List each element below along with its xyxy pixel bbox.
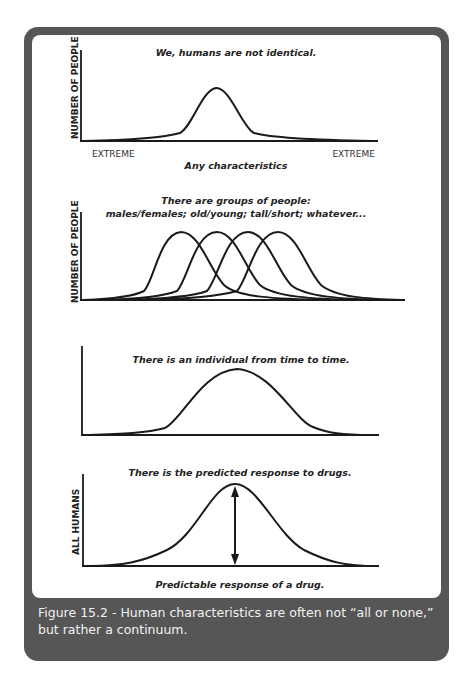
figure-diagrams: We, humans are not identical. NUMBER OF … bbox=[32, 35, 441, 598]
chart-1-x-right-label: EXTREME bbox=[332, 149, 375, 159]
chart-4-title: There is the predicted response to drugs… bbox=[128, 467, 351, 478]
arrow-up-icon bbox=[231, 486, 239, 497]
chart-4-xlabel: Predictable response of a drug. bbox=[156, 579, 325, 590]
figure-panel: We, humans are not identical. NUMBER OF … bbox=[32, 35, 441, 598]
figure-frame: We, humans are not identical. NUMBER OF … bbox=[24, 27, 449, 661]
chart-1-title: We, humans are not identical. bbox=[156, 47, 317, 58]
figure-caption: Figure 15.2 - Human characteristics are … bbox=[38, 604, 438, 638]
chart-1-x-left-label: EXTREME bbox=[92, 149, 135, 159]
chart-1-xlabel: Any characteristics bbox=[184, 160, 288, 171]
chart-4-ylabel: ALL HUMANS bbox=[71, 489, 81, 555]
arrow-down-icon bbox=[231, 554, 239, 565]
chart-3: There is an individual from time to time… bbox=[81, 346, 379, 436]
chart-1: We, humans are not identical. NUMBER OF … bbox=[70, 36, 378, 171]
chart-3-bell-curve bbox=[89, 369, 372, 435]
chart-2-curve-3 bbox=[122, 232, 387, 300]
chart-4: There is the predicted response to drugs… bbox=[71, 467, 379, 590]
chart-1-ylabel: NUMBER OF PEOPLE bbox=[70, 36, 80, 139]
chart-2-title-line2: males/females; old/young; tall/short; wh… bbox=[106, 208, 367, 219]
chart-2-title-line1: There are groups of people: bbox=[161, 195, 311, 206]
chart-1-bell-curve bbox=[84, 88, 372, 141]
chart-2-ylabel: NUMBER OF PEOPLE bbox=[70, 200, 80, 303]
chart-3-title: There is an individual from time to time… bbox=[132, 354, 349, 365]
chart-2-curve-4 bbox=[142, 232, 402, 300]
chart-2: There are groups of people: males/female… bbox=[70, 195, 405, 303]
